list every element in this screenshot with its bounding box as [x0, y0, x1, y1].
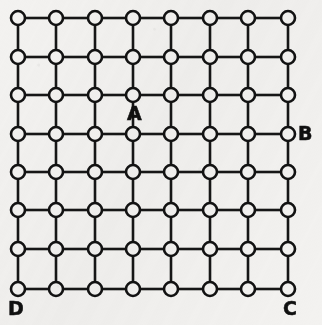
grid-node-r1-c3 [88, 11, 102, 25]
grid-node-r6-c4 [126, 203, 140, 217]
grid-node-r8-c6 [203, 282, 217, 296]
grid-node-r8-c4 [126, 282, 140, 296]
grid-node-r8-c7 [241, 282, 255, 296]
grid-node-r7-c5 [164, 242, 178, 256]
label-a: A [127, 104, 142, 123]
grid-node-r4-c6 [203, 127, 217, 141]
label-b: B [298, 124, 312, 143]
grid-node-r7-c1 [11, 242, 25, 256]
grid-node-r4-c8 [281, 127, 295, 141]
grid-node-r8-c5 [164, 282, 178, 296]
grid-node-r7-c3 [88, 242, 102, 256]
grid-node-r6-c8 [281, 203, 295, 217]
lattice-graph-canvas [0, 0, 322, 325]
grid-node-r5-c3 [88, 165, 102, 179]
grid-node-r5-c7 [241, 165, 255, 179]
grid-node-r4-c1 [11, 127, 25, 141]
grid-node-r2-c5 [164, 50, 178, 64]
grid-node-r1-c1 [11, 11, 25, 25]
grid-node-r5-c1 [11, 165, 25, 179]
grid-node-r7-c7 [241, 242, 255, 256]
grid-node-r6-c7 [241, 203, 255, 217]
grid-node-r8-c1 [11, 282, 25, 296]
grid-node-r2-c3 [88, 50, 102, 64]
grid-node-r6-c2 [49, 203, 63, 217]
label-c: C [283, 299, 297, 318]
grid-node-r2-c4 [126, 50, 140, 64]
grid-node-r2-c8 [281, 50, 295, 64]
grid-node-r3-c1 [11, 88, 25, 102]
grid-node-r5-c5 [164, 165, 178, 179]
grid-node-r3-c4 [126, 88, 140, 102]
grid-node-r3-c2 [49, 88, 63, 102]
grid-node-r2-c6 [203, 50, 217, 64]
grid-node-r5-c6 [203, 165, 217, 179]
grid-node-r3-c5 [164, 88, 178, 102]
grid-node-r3-c8 [281, 88, 295, 102]
lattice-diagram-figure: ABCD [0, 0, 322, 325]
grid-node-r1-c2 [49, 11, 63, 25]
grid-nodes-layer [11, 11, 295, 296]
grid-node-r8-c3 [88, 282, 102, 296]
grid-node-r5-c2 [49, 165, 63, 179]
grid-node-r3-c6 [203, 88, 217, 102]
grid-node-r4-c4 [126, 127, 140, 141]
grid-node-r3-c7 [241, 88, 255, 102]
grid-node-r6-c5 [164, 203, 178, 217]
grid-node-r1-c4 [126, 11, 140, 25]
grid-node-r4-c7 [241, 127, 255, 141]
grid-node-r6-c3 [88, 203, 102, 217]
grid-node-r1-c6 [203, 11, 217, 25]
grid-node-r5-c4 [126, 165, 140, 179]
label-d: D [8, 299, 24, 318]
grid-node-r7-c4 [126, 242, 140, 256]
grid-node-r4-c5 [164, 127, 178, 141]
grid-node-r4-c3 [88, 127, 102, 141]
grid-node-r2-c7 [241, 50, 255, 64]
grid-node-r4-c2 [49, 127, 63, 141]
grid-node-r1-c8 [281, 11, 295, 25]
grid-node-r8-c2 [49, 282, 63, 296]
grid-node-r6-c1 [11, 203, 25, 217]
grid-node-r5-c8 [281, 165, 295, 179]
grid-node-r2-c1 [11, 50, 25, 64]
grid-node-r2-c2 [49, 50, 63, 64]
grid-node-r1-c7 [241, 11, 255, 25]
grid-node-r7-c6 [203, 242, 217, 256]
grid-node-r6-c6 [203, 203, 217, 217]
grid-node-r8-c8 [281, 282, 295, 296]
grid-node-r3-c3 [88, 88, 102, 102]
grid-node-r7-c8 [281, 242, 295, 256]
grid-node-r1-c5 [164, 11, 178, 25]
grid-node-r7-c2 [49, 242, 63, 256]
